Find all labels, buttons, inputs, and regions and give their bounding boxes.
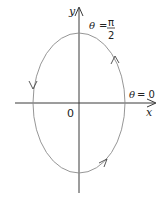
origin-label: 0 xyxy=(67,107,74,120)
theta-zero-annotation: θ = 0 xyxy=(129,89,155,100)
diagram-canvas: y x 0 θ = π 2 θ = 0 xyxy=(0,0,163,199)
x-axis xyxy=(15,99,156,107)
ellipse-diagram: y x 0 θ = π 2 θ = 0 xyxy=(0,0,163,199)
x-axis-label: x xyxy=(146,106,153,119)
pi-denominator: 2 xyxy=(108,30,114,41)
theta-symbol: θ xyxy=(89,20,95,31)
theta-symbol-zero: θ xyxy=(129,89,135,100)
pi-numerator: π xyxy=(108,17,114,28)
y-axis-label: y xyxy=(68,5,76,18)
arrow-down-left-icon xyxy=(29,81,37,89)
equals-zero: = 0 xyxy=(137,89,155,100)
y-axis xyxy=(75,7,83,193)
theta-pi-over-2-annotation: θ = π 2 xyxy=(89,17,115,41)
equals-sign: = xyxy=(99,20,107,31)
